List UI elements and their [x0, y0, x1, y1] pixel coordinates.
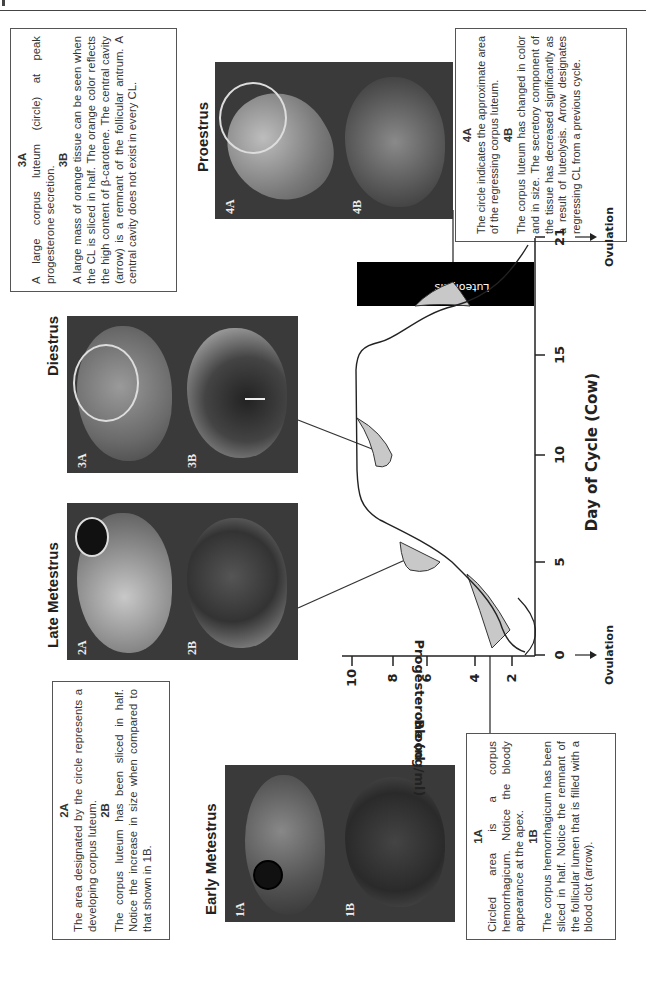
- x-tick-5: 5: [552, 557, 567, 566]
- connector-late-metestrus: [298, 560, 405, 608]
- y-tick-10: 10: [344, 669, 359, 687]
- x-tick-21: 21: [552, 228, 567, 246]
- ovulation-arrow-start-icon: [575, 651, 597, 659]
- cl-shade-diestrus: [357, 418, 392, 467]
- cl-shade-early-metestrus: [467, 574, 510, 648]
- x-tick-15: 15: [552, 346, 567, 364]
- x-tick-10: 10: [552, 446, 567, 464]
- cl-shade-late-metestrus: [400, 542, 440, 571]
- y-axis-ticks: [352, 656, 512, 666]
- ovulation-curve: [518, 598, 535, 655]
- ovulation-arrow-end-icon: [575, 233, 597, 241]
- y-tick-4: 4: [467, 673, 482, 682]
- ovulation-label-end: Ovulation: [603, 207, 616, 267]
- y-tick-8: 8: [385, 673, 400, 682]
- x-tick-0: 0: [552, 650, 567, 659]
- y-axis-title-line1: Blood: [412, 719, 427, 761]
- x-axis-title: Day of Cycle (Cow): [583, 373, 601, 531]
- ovulation-label-start: Ovulation: [603, 625, 616, 685]
- x-axis-ticks: [535, 237, 545, 655]
- progesterone-chart: Luteolysis 0 5 10 15 21 Ovulation Ovulat…: [0, 0, 646, 991]
- y-axis-title-line2: Progesterone (ng/ml): [412, 640, 427, 797]
- y-tick-2: 2: [504, 673, 519, 682]
